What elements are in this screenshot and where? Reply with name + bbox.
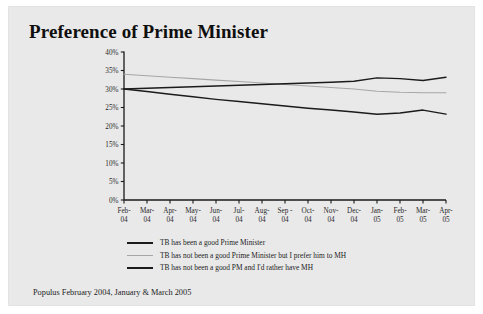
x-axis-tick-label: Apr- (163, 207, 177, 215)
source-note: Populus February 2004, January & March 2… (33, 288, 191, 297)
x-axis-tick-label-year: 04 (258, 216, 266, 224)
x-axis-tick-label-year: 04 (120, 216, 128, 224)
legend-swatch-icon (127, 255, 153, 256)
legend-item[interactable]: TB has not been a good PM and I'd rather… (127, 262, 457, 274)
legend-item[interactable]: TB has been a good Prime Minister (127, 237, 457, 249)
x-axis-tick-label-year: 04 (350, 216, 358, 224)
legend-swatch-icon (127, 242, 153, 244)
x-axis-tick-label-year: 04 (143, 216, 151, 224)
x-axis-tick-label: Feb- (393, 207, 407, 215)
y-axis-tick-label: 20% (105, 123, 118, 131)
x-axis-tick-label: Aug- (255, 207, 270, 215)
x-axis-tick-label: Jun- (210, 207, 223, 215)
y-axis-tick-label: 0% (109, 197, 119, 205)
x-axis-tick-label-year: 04 (166, 216, 174, 224)
x-axis-tick-label: Feb- (117, 207, 131, 215)
legend-item[interactable]: TB has not been a good Prime Minister bu… (127, 249, 457, 261)
y-axis-tick-label: 30% (105, 86, 118, 94)
x-axis-tick-label-year: 05 (396, 216, 404, 224)
x-axis-tick-label-year: 04 (327, 216, 335, 224)
y-axis-tick-label: 35% (105, 67, 118, 75)
y-axis-tick-label: 40% (105, 49, 118, 57)
chart-panel: Preference of Prime Minister 0%5%10%15%2… (9, 7, 474, 305)
x-axis-tick-label: Apr- (439, 207, 453, 215)
x-axis-tick-label: Nov- (324, 207, 339, 215)
y-axis: 0%5%10%15%20%25%30%35%40% (105, 49, 124, 205)
x-axis-tick-label: Jan- (371, 207, 384, 215)
legend-label: TB has been a good Prime Minister (160, 239, 265, 246)
legend-label: TB has not been a good PM and I'd rather… (160, 264, 313, 271)
x-axis-tick-label: Sep - (278, 207, 294, 215)
x-axis-tick-label: Dec- (347, 207, 362, 215)
x-axis-tick-label-year: 05 (442, 216, 450, 224)
x-axis-tick-label: Jul- (234, 207, 245, 215)
x-axis-tick-label: Oct- (302, 207, 315, 215)
chart-legend: TB has been a good Prime MinisterTB has … (127, 237, 457, 274)
y-axis-tick-label: 25% (105, 104, 118, 112)
x-axis-tick-label-year: 04 (281, 216, 289, 224)
x-axis-tick-label-year: 04 (212, 216, 220, 224)
legend-swatch-icon (127, 267, 153, 269)
y-axis-tick-label: 15% (105, 141, 118, 149)
x-axis-tick-label-year: 04 (235, 216, 243, 224)
x-axis: Feb-04Mar-04Apr-04May-04Jun-04Jul-04Aug-… (117, 200, 453, 224)
data-series-group (124, 74, 446, 114)
legend-label: TB has not been a good Prime Minister bu… (160, 252, 346, 259)
data-series-line (124, 77, 446, 89)
data-series-line (124, 89, 446, 114)
y-axis-tick-label: 5% (109, 178, 119, 186)
x-axis-tick-label: May- (185, 207, 201, 215)
x-axis-tick-label-year: 05 (419, 216, 427, 224)
x-axis-tick-label-year: 05 (373, 216, 381, 224)
x-axis-tick-label-year: 04 (304, 216, 312, 224)
x-axis-tick-label: Mar- (416, 207, 431, 215)
y-axis-tick-label: 10% (105, 160, 118, 168)
x-axis-tick-label-year: 04 (189, 216, 197, 224)
x-axis-tick-label: Mar- (140, 207, 155, 215)
